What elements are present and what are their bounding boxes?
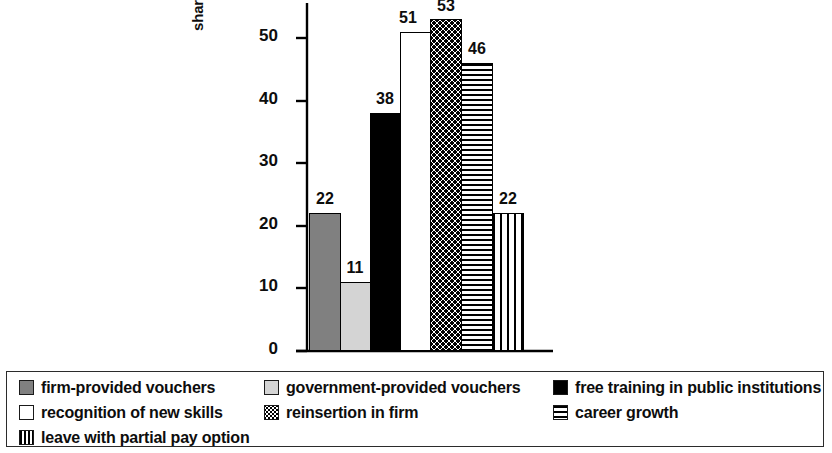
bar-government-provided-vouchers [340, 282, 371, 351]
legend-item-government-provided-vouchers: government-provided vouchers [264, 375, 520, 400]
legend-item-firm-provided-vouchers: firm-provided vouchers [19, 375, 215, 400]
bar-value-label-1: 22 [303, 190, 347, 208]
legend-row-1: firm-provided vouchers government-provid… [7, 375, 823, 400]
bar-value-label-2: 11 [333, 259, 377, 277]
legend-swatch-solid-dark-gray-icon [19, 380, 34, 395]
legend-label-reinsertion-in-firm: reinsertion in firm [286, 404, 418, 422]
bar-chart-figure: share of firms that responded affirmativ… [0, 0, 832, 366]
legend-swatch-dotted-checker-icon [264, 405, 279, 420]
legend-item-leave-with-partial-pay-option: leave with partial pay option [19, 425, 249, 450]
legend-item-reinsertion-in-firm: reinsertion in firm [264, 400, 418, 425]
bar-recognition-of-new-skills [400, 32, 431, 351]
bar-value-label-3: 38 [363, 90, 407, 108]
legend-label-firm-provided-vouchers: firm-provided vouchers [41, 379, 215, 397]
bar-reinsertion-in-firm [430, 19, 462, 351]
legend-item-recognition-of-new-skills: recognition of new skills [19, 400, 223, 425]
legend-swatch-solid-black-icon [553, 380, 568, 395]
bar-value-label-6: 46 [455, 40, 499, 58]
legend-item-free-training-in-public-institutions: free training in public institutions [553, 375, 821, 400]
legend-swatch-white-outline-icon [19, 405, 34, 420]
legend-swatch-solid-light-gray-icon [264, 380, 279, 395]
legend-label-recognition-of-new-skills: recognition of new skills [41, 404, 223, 422]
legend-label-career-growth: career growth [575, 404, 678, 422]
bar-leave-with-partial-pay-option [492, 213, 524, 351]
legend-row-3: leave with partial pay option [7, 425, 823, 450]
legend-swatch-vertical-stripes-icon [19, 430, 34, 445]
bar-firm-provided-vouchers [309, 213, 341, 351]
legend-item-career-growth: career growth [553, 400, 678, 425]
chart-legend: firm-provided vouchers government-provid… [6, 371, 824, 447]
bar-value-label-7: 22 [486, 190, 530, 208]
legend-label-leave-with-partial-pay-option: leave with partial pay option [41, 429, 249, 447]
legend-label-free-training-in-public-institutions: free training in public institutions [575, 379, 821, 397]
bar-free-training-public-institutions [370, 113, 401, 351]
legend-row-2: recognition of new skills reinsertion in… [7, 400, 823, 425]
legend-swatch-horizontal-stripes-icon [553, 405, 568, 420]
bar-value-label-5: 53 [424, 0, 468, 15]
legend-label-government-provided-vouchers: government-provided vouchers [286, 379, 520, 397]
